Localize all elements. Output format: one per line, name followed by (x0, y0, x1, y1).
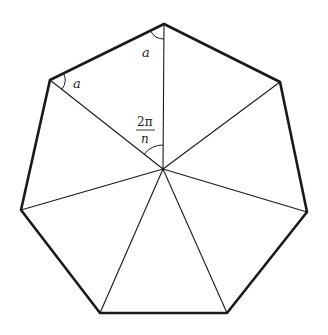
spoke-upper-right (163, 82, 280, 169)
angle-arc-top (151, 31, 164, 39)
spoke-left (21, 169, 163, 210)
heptagon-diagram: a a 2π n (0, 0, 328, 335)
spoke-top (163, 24, 164, 169)
angle-arc-left (62, 73, 65, 89)
spokes (21, 24, 307, 313)
central-angle-label: 2π n (136, 115, 155, 146)
fraction-denominator: n (141, 132, 149, 146)
angle-arc-center (144, 145, 163, 154)
spoke-bottom-left (100, 169, 163, 313)
spoke-right (163, 169, 307, 212)
spoke-bottom-right (163, 169, 227, 313)
angle-label-left: a (73, 76, 81, 91)
angle-label-top: a (142, 45, 150, 60)
fraction-numerator: 2π (137, 115, 153, 129)
